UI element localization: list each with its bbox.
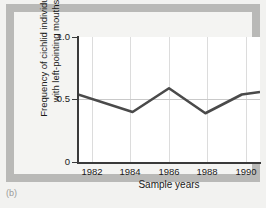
y-axis-title-line-2: with left-pointing mouths <box>50 0 62 136</box>
y-tick-mark-2 <box>72 99 77 100</box>
x-axis-line <box>77 162 261 164</box>
x-tick-label-1986: 1986 <box>149 166 189 177</box>
y-tick-mark-3 <box>72 162 77 163</box>
figure-root: 1.0 0.5 0 1982 1984 1986 1988 1990 Sampl… <box>0 0 266 208</box>
x-axis-title: Sample years <box>78 179 260 190</box>
figure-panel-inner: 1.0 0.5 0 1982 1984 1986 1988 1990 Sampl… <box>14 12 252 174</box>
x-tick-label-1984: 1984 <box>110 166 150 177</box>
y-axis-title: Frequency of cichlid individuals with le… <box>38 0 64 136</box>
x-tick-label-1988: 1988 <box>187 166 227 177</box>
figure-panel: 1.0 0.5 0 1982 1984 1986 1988 1990 Sampl… <box>6 4 260 182</box>
y-tick-label-0: 0 <box>48 157 70 167</box>
y-tick-mark-1 <box>72 37 77 38</box>
x-tick-label-1990: 1990 <box>226 166 266 177</box>
x-tick-label-1982: 1982 <box>72 166 112 177</box>
y-axis-title-line-1: Frequency of cichlid individuals <box>38 0 49 117</box>
y-axis-line <box>77 36 79 163</box>
data-series-line <box>78 37 260 162</box>
figure-caption: (b) <box>6 188 17 198</box>
